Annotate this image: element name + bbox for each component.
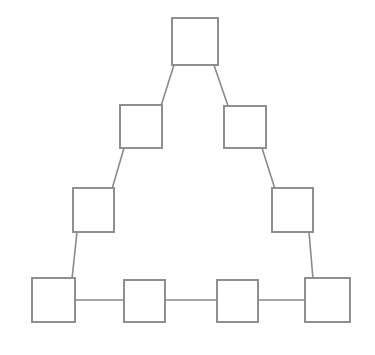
- diagram-canvas: [0, 0, 375, 355]
- edge-layer: [72, 65, 313, 300]
- node-upper-left[interactable]: [120, 105, 162, 148]
- edge-mid-left-bottom-1: [72, 232, 77, 279]
- node-layer: [32, 18, 350, 322]
- node-mid-right[interactable]: [272, 188, 313, 232]
- node-mid-left[interactable]: [73, 188, 114, 232]
- node-bottom-3[interactable]: [217, 280, 258, 322]
- node-apex[interactable]: [172, 18, 218, 65]
- edge-mid-right-bottom-4: [309, 232, 313, 279]
- edge-upper-right-mid-right: [262, 148, 275, 189]
- node-bottom-4[interactable]: [305, 278, 350, 322]
- edge-apex-upper-right: [214, 65, 228, 106]
- node-upper-right[interactable]: [224, 106, 266, 148]
- triangular-node-diagram: [0, 0, 375, 355]
- edge-upper-left-mid-left: [112, 148, 124, 189]
- node-bottom-2[interactable]: [124, 280, 165, 322]
- node-bottom-1[interactable]: [32, 278, 75, 322]
- edge-apex-upper-left: [161, 65, 174, 106]
